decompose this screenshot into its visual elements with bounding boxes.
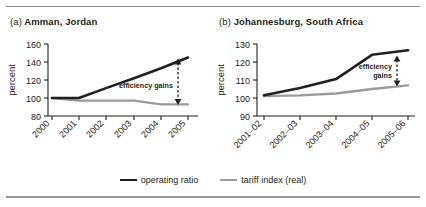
chart-panel-b: (b) Johannesburg, South Africa 130 120 1…	[211, 12, 424, 162]
panel-a-xtick-2004: 2004	[139, 118, 160, 139]
panel-b-xtick-2002-03: 2002–03	[268, 118, 300, 150]
panel-b-efficiency-arrow-up-icon	[394, 56, 401, 62]
panel-a-efficiency-gains-label: efficiency gains	[119, 81, 173, 90]
panel-a-xtick-2001: 2001	[57, 118, 78, 139]
panel-b-ytick-90: 90	[240, 112, 250, 122]
panel-a-ytick-120: 120	[26, 76, 41, 86]
panel-b-ytick-130: 130	[235, 40, 250, 50]
panel-a-xtick-2002: 2002	[84, 118, 105, 139]
panel-b-y-ticks	[253, 44, 257, 116]
panel-b-xtick-2001-02: 2001–02	[232, 118, 264, 150]
bottom-rule	[6, 196, 420, 198]
panel-b-efficiency-gains-label-line1: efficiency	[359, 62, 392, 71]
panel-a-y-ticks	[44, 44, 48, 116]
legend-label-operating-ratio: operating ratio	[141, 175, 199, 185]
panel-a-ytick-100: 100	[26, 94, 41, 104]
panel-a-xtick-2005: 2005	[166, 118, 187, 139]
panel-b-ytick-110: 110	[236, 76, 250, 86]
top-rule	[6, 6, 420, 7]
legend-line-swatch-icon-operating-ratio	[120, 179, 137, 181]
panel-a-title: (a) Amman, Jordan	[10, 16, 97, 27]
panel-a-x-ticks	[52, 116, 188, 120]
legend-item-operating-ratio: operating ratio	[120, 175, 199, 185]
panel-b-xtick-2005-06: 2005–06	[376, 118, 408, 150]
panel-b-efficiency-gains-label-line2: gains	[373, 71, 392, 80]
legend-label-tariff-index: tariff index (real)	[241, 175, 306, 185]
panel-a-series-operating-ratio	[52, 58, 188, 99]
panel-b-tag: (b)	[219, 16, 231, 27]
chart-legend: operating ratio tariff index (real)	[0, 172, 426, 188]
panel-a-ytick-80: 80	[31, 112, 41, 122]
panel-b-title-text: Johannesburg, South Africa	[234, 16, 363, 27]
panel-a-ytick-140: 140	[26, 58, 41, 68]
panel-a-title-text: Amman, Jordan	[24, 16, 97, 27]
panel-b-x-tick-labels: 2001–02 2002–03 2003–04 2004–05 2005–06	[232, 118, 408, 150]
panel-a-xtick-2003: 2003	[112, 118, 133, 139]
panel-b-xtick-2004-05: 2004–05	[340, 118, 372, 150]
panel-b-plot: 130 120 110 100 90 percent 2001–02 2002–…	[211, 30, 426, 162]
panel-a-tag: (a)	[10, 16, 22, 27]
figure: (a) Amman, Jordan 160 140 120 100 80	[0, 0, 426, 207]
legend-line-swatch-icon-tariff-index	[220, 179, 237, 181]
panel-b-ytick-120: 120	[235, 58, 250, 68]
panel-a-ytick-160: 160	[26, 40, 41, 50]
panel-a-y-tick-labels: 160 140 120 100 80	[26, 40, 41, 122]
legend-item-tariff-index: tariff index (real)	[220, 175, 306, 185]
panel-b-xtick-2003-04: 2003–04	[304, 118, 336, 150]
chart-panel-a: (a) Amman, Jordan 160 140 120 100 80	[2, 12, 215, 162]
panel-b-y-axis-title: percent	[215, 64, 226, 96]
panel-b-y-tick-labels: 130 120 110 100 90	[235, 40, 250, 122]
panel-a-y-axis-title: percent	[6, 64, 17, 96]
panel-b-title: (b) Johannesburg, South Africa	[219, 16, 363, 27]
panel-b-ytick-100: 100	[235, 94, 250, 104]
panel-a-x-tick-labels: 2000 2001 2002 2003 2004 2005	[30, 118, 187, 139]
panel-a-efficiency-gains-annotation: efficiency gains	[119, 59, 181, 106]
panel-a-xtick-2000: 2000	[30, 118, 51, 139]
panel-a-plot: 160 140 120 100 80 percent 2000 2001 200	[2, 30, 215, 162]
panel-b-x-ticks	[264, 116, 408, 120]
